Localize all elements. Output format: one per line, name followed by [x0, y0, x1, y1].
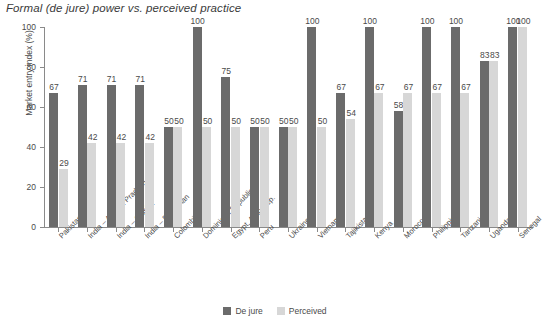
plot-area: 6729714271427142505010050755050505050100…: [44, 27, 532, 227]
bar-group: 100100: [508, 27, 527, 227]
bar-group: 10067: [365, 27, 384, 227]
bar-de-jure: [307, 27, 316, 227]
bar-perceived: [288, 127, 297, 227]
bar-de-jure: [365, 27, 374, 227]
bar-perceived: [59, 169, 68, 227]
bar-value-label: 67: [369, 82, 391, 92]
bar-de-jure: [250, 127, 259, 227]
legend-item[interactable]: De jure: [223, 306, 262, 316]
bar-perceived: [432, 93, 441, 227]
bar-group: 8383: [480, 27, 499, 227]
bar-perceived: [260, 127, 269, 227]
y-axis-tick: [40, 227, 45, 228]
chart-legend: De jurePerceived: [0, 306, 550, 316]
y-axis-tick-label: 40: [14, 142, 36, 152]
bar-value-label: 42: [139, 132, 161, 142]
bar-group: 5050: [250, 27, 269, 227]
bar-group: 7550: [221, 27, 240, 227]
bar-value-label: 100: [187, 16, 209, 26]
bar-value-label: 50: [283, 116, 305, 126]
bar-value-label: 100: [445, 16, 467, 26]
bar-de-jure: [394, 111, 403, 227]
bar-value-label: 67: [43, 82, 65, 92]
bar-group: 10067: [451, 27, 470, 227]
legend-swatch-icon: [277, 307, 285, 315]
bar-value-label: 67: [330, 82, 352, 92]
bar-de-jure: [193, 27, 202, 227]
bar-group: 10067: [422, 27, 441, 227]
bar-perceived: [317, 127, 326, 227]
bar-value-label: 50: [168, 116, 190, 126]
bar-de-jure: [480, 61, 489, 227]
legend-item[interactable]: Perceived: [277, 306, 327, 316]
bar-perceived: [460, 93, 469, 227]
bar-de-jure: [508, 27, 517, 227]
y-axis-tick-label: 80: [14, 62, 36, 72]
bar-group: 6754: [336, 27, 355, 227]
bar-de-jure: [164, 127, 173, 227]
bar-perceived: [231, 127, 240, 227]
bar-perceived: [518, 27, 527, 227]
bar-perceived: [403, 93, 412, 227]
bar-value-label: 71: [129, 74, 151, 84]
bar-perceived: [87, 143, 96, 227]
y-axis-tick-label: 100: [14, 22, 36, 32]
bar-value-label: 100: [359, 16, 381, 26]
legend-label: Perceived: [289, 306, 327, 316]
bar-value-label: 67: [426, 82, 448, 92]
bar-value-label: 75: [215, 66, 237, 76]
bar-value-label: 100: [512, 16, 534, 26]
bar-de-jure: [221, 77, 230, 227]
bar-value-label: 67: [398, 82, 420, 92]
y-axis-tick-label: 0: [14, 222, 36, 232]
bar-group: 10050: [307, 27, 326, 227]
bar-group: 5867: [394, 27, 413, 227]
bar-group: 5050: [164, 27, 183, 227]
bar-perceived: [202, 127, 211, 227]
bar-perceived: [374, 93, 383, 227]
bar-value-label: 42: [82, 132, 104, 142]
chart-container: Formal (de jure) power vs. perceived pra…: [0, 0, 550, 325]
bar-value-label: 71: [101, 74, 123, 84]
bar-de-jure: [78, 85, 87, 227]
bar-group: 5050: [279, 27, 298, 227]
bar-de-jure: [279, 127, 288, 227]
bar-value-label: 50: [197, 116, 219, 126]
bar-perceived: [489, 61, 498, 227]
bar-perceived: [346, 119, 355, 227]
bar-value-label: 100: [416, 16, 438, 26]
bar-group: 7142: [78, 27, 97, 227]
y-axis-tick-label: 20: [14, 182, 36, 192]
bar-value-label: 83: [484, 50, 506, 60]
bar-group: 7142: [107, 27, 126, 227]
bar-value-label: 29: [53, 158, 75, 168]
legend-label: De jure: [235, 306, 262, 316]
bar-value-label: 42: [111, 132, 133, 142]
bar-perceived: [173, 127, 182, 227]
bar-de-jure: [422, 27, 431, 227]
bar-de-jure: [107, 85, 116, 227]
legend-swatch-icon: [223, 307, 231, 315]
bar-de-jure: [451, 27, 460, 227]
bar-group: 6729: [49, 27, 68, 227]
bar-group: 10050: [193, 27, 212, 227]
bar-group: 7142: [135, 27, 154, 227]
bar-de-jure: [135, 85, 144, 227]
bar-value-label: 100: [301, 16, 323, 26]
bar-value-label: 54: [340, 108, 362, 118]
bar-value-label: 71: [72, 74, 94, 84]
bar-value-label: 50: [311, 116, 333, 126]
chart-title: Formal (de jure) power vs. perceived pra…: [6, 2, 241, 14]
bar-perceived: [145, 143, 154, 227]
bar-perceived: [116, 143, 125, 227]
bar-value-label: 67: [455, 82, 477, 92]
y-axis-tick-label: 60: [14, 102, 36, 112]
